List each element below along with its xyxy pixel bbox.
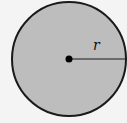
center-point bbox=[66, 56, 73, 63]
circle-diagram: r bbox=[0, 0, 127, 123]
